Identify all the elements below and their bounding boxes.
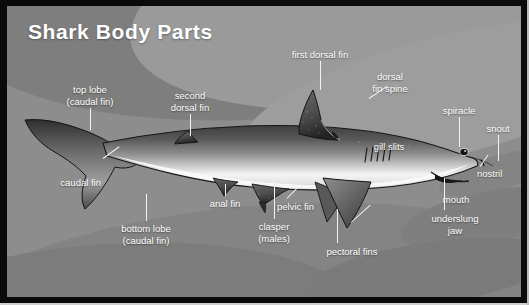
clasper-shape — [259, 202, 266, 213]
label-pelvic-fin: pelvic fin — [277, 201, 314, 213]
leader-top-lobe-caudal-fin — [90, 108, 91, 130]
label-nostril: nostril — [477, 168, 502, 180]
label-anal-fin: anal fin — [210, 198, 241, 210]
label-first-dorsal-fin: first dorsal fin — [292, 49, 349, 61]
shark-illustration — [7, 6, 521, 297]
leader-clasper-males — [274, 181, 275, 219]
leader-second-dorsal-fin — [190, 114, 191, 136]
label-bottom-lobe-caudal-fin: bottom lobe (caudal fin) — [121, 223, 171, 246]
eye-highlight — [464, 150, 466, 152]
leader-pectoral-fins-a — [337, 209, 338, 243]
label-gill-slits: gill slits — [374, 141, 405, 153]
leader-first-dorsal-fin — [320, 61, 321, 90]
label-pectoral-fins: pectoral fins — [326, 246, 377, 258]
label-clasper-males: clasper (males) — [258, 221, 290, 244]
caudal-fin-shape — [25, 120, 137, 209]
label-spiracle: spiracle — [443, 105, 476, 117]
eye-shape — [460, 148, 468, 155]
label-top-lobe-caudal-fin: top lobe (caudal fin) — [67, 84, 114, 107]
diagram-canvas: Shark Body Parts — [7, 6, 521, 297]
leader-snout — [498, 135, 499, 161]
leader-mouth — [444, 178, 445, 210]
label-snout: snout — [486, 123, 509, 135]
label-caudal-fin: caudal fin — [60, 177, 101, 189]
label-mouth: mouth — [443, 194, 469, 206]
leader-bottom-lobe-caudal-fin — [146, 194, 147, 221]
label-second-dorsal-fin: second dorsal fin — [171, 90, 210, 113]
shark-body-group — [25, 90, 493, 228]
label-underslung-jaw: underslung jaw — [431, 213, 478, 236]
shark-body-parts-diagram: Shark Body Parts — [0, 0, 529, 305]
leader-anal-fin — [225, 184, 226, 196]
body-shape — [103, 126, 478, 191]
leader-spiracle — [459, 117, 460, 147]
